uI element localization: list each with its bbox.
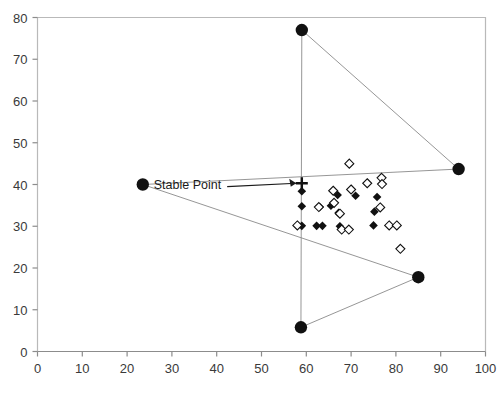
vertex-point: [296, 24, 308, 36]
vertex-point: [452, 163, 464, 175]
scatter-chart: 0102030405060708090100 01020304050607080…: [0, 0, 502, 401]
x-tick-label: 50: [254, 361, 268, 376]
y-tick-label: 0: [20, 345, 27, 360]
x-tick-label: 90: [433, 361, 447, 376]
x-tick-label: 40: [209, 361, 223, 376]
chart-background: [0, 0, 502, 401]
vertex-point: [295, 321, 307, 333]
x-tick-label: 20: [120, 361, 134, 376]
x-tick-label: 30: [165, 361, 179, 376]
y-tick-label: 40: [13, 178, 27, 193]
vertex-point: [412, 271, 424, 283]
vertex-point: [137, 178, 149, 190]
y-tick-label: 50: [13, 136, 27, 151]
x-tick-label: 10: [75, 361, 89, 376]
chart-canvas: 0102030405060708090100 01020304050607080…: [0, 0, 502, 401]
y-tick-label: 20: [13, 261, 27, 276]
y-tick-label: 30: [13, 219, 27, 234]
stable-point-label: Stable Point: [154, 178, 222, 192]
y-tick-label: 70: [13, 52, 27, 67]
x-tick-label: 60: [299, 361, 313, 376]
x-tick-label: 70: [344, 361, 358, 376]
x-tick-label: 100: [475, 361, 497, 376]
y-tick-label: 80: [13, 11, 27, 26]
y-tick-label: 10: [13, 303, 27, 318]
x-tick-label: 0: [34, 361, 41, 376]
x-tick-label: 80: [389, 361, 403, 376]
y-tick-label: 60: [13, 94, 27, 109]
